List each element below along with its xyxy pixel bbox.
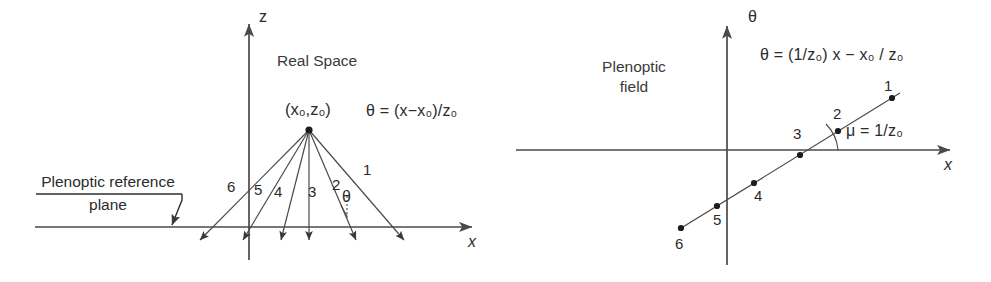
right-theta-axis-label: θ bbox=[748, 8, 757, 26]
ray-label-2: 2 bbox=[332, 177, 340, 194]
ray-1 bbox=[309, 130, 404, 240]
point-dot-6 bbox=[678, 225, 684, 231]
theta-angle-label: θ bbox=[342, 188, 351, 206]
point-label-5: 5 bbox=[713, 212, 721, 229]
point-dot-1 bbox=[889, 95, 895, 101]
slope-label: μ = 1/z₀ bbox=[846, 122, 903, 140]
ray-label-5: 5 bbox=[254, 182, 262, 199]
plenoptic-line bbox=[678, 93, 900, 230]
point-label-4: 4 bbox=[754, 188, 762, 205]
point-dot-5 bbox=[714, 203, 720, 209]
right-panel-title-line1: Plenoptic bbox=[570, 58, 698, 76]
ray-4 bbox=[281, 130, 309, 240]
source-point-dot bbox=[305, 126, 312, 133]
ray-label-6: 6 bbox=[227, 179, 235, 196]
point-dot-3 bbox=[797, 152, 803, 158]
right-panel-formula: θ = (1/z₀) x − x₀ / z₀ bbox=[760, 46, 903, 64]
left-z-axis-label: z bbox=[259, 8, 267, 26]
point-label-6: 6 bbox=[675, 236, 683, 253]
left-panel-formula: θ = (x−x₀)/z₀ bbox=[366, 102, 457, 120]
point-label-2: 2 bbox=[833, 106, 841, 123]
plenoptic-figure: Real Space (x₀,z₀) θ = (x−x₀)/z₀ z x Ple… bbox=[0, 0, 991, 282]
point-dot-2 bbox=[835, 128, 841, 134]
left-panel-title: Real Space bbox=[277, 52, 357, 69]
ray-label-3: 3 bbox=[308, 184, 316, 201]
right-panel-title-line2: field bbox=[570, 78, 698, 96]
source-point-label: (x₀,z₀) bbox=[285, 100, 331, 118]
left-x-axis-label: x bbox=[468, 233, 476, 251]
right-x-axis-label: x bbox=[944, 156, 952, 174]
ray-label-1: 1 bbox=[363, 162, 371, 179]
point-label-1: 1 bbox=[884, 78, 892, 95]
reference-plane-label-line1: Plenoptic reference bbox=[32, 173, 184, 190]
ray-label-4: 4 bbox=[274, 184, 282, 201]
diagram-canvas bbox=[0, 0, 991, 282]
point-label-3: 3 bbox=[793, 126, 801, 143]
point-dot-4 bbox=[751, 180, 757, 186]
reference-plane-label-line2: plane bbox=[32, 196, 184, 213]
